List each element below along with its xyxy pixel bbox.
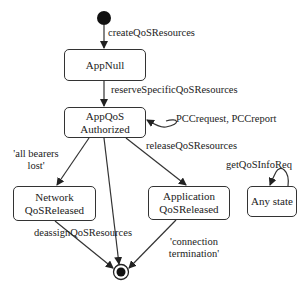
label-line1: 'connection — [164, 236, 224, 248]
state-label-line2: QoSReleased — [159, 203, 218, 216]
state-label-line1: Application — [163, 190, 215, 203]
state-any-state: Any state — [247, 186, 297, 217]
state-app-qos-authorized: AppQoS Authorized — [64, 107, 146, 138]
state-label-line2: QoSReleased — [25, 204, 84, 217]
label-line2: termination' — [164, 248, 224, 260]
state-app-null-label: AppNull — [86, 59, 125, 72]
transition-label-bearers-lost: 'all bearers lost' — [9, 148, 63, 172]
state-network-qos-released: Network QoSReleased — [13, 186, 96, 221]
state-label-line1: AppQoS — [86, 110, 125, 123]
transition-label-deassign: deassignQoSResources — [34, 227, 132, 239]
transition-label-release: releaseQoSResources — [146, 140, 237, 152]
edge-get-info-self-loop — [270, 168, 288, 186]
edge-direct-final — [104, 138, 119, 264]
final-state-inner — [117, 268, 126, 277]
transition-label-connection-termination: 'connection termination' — [164, 236, 224, 260]
state-label-line1: Network — [35, 191, 74, 204]
state-application-qos-released: Application QoSReleased — [148, 186, 230, 220]
edge-pcc-self-loop — [147, 120, 177, 127]
initial-state — [97, 11, 111, 25]
transition-label-reserve: reserveSpecificQoSResources — [111, 84, 238, 96]
transition-label-pcc: PCCrequest, PCCreport — [176, 113, 276, 125]
state-any-state-label: Any state — [251, 195, 293, 208]
label-line2: lost' — [9, 160, 63, 172]
state-label-line2: Authorized — [80, 123, 129, 136]
label-line1: 'all bearers — [9, 148, 63, 160]
transition-label-create: createQoSResources — [108, 27, 195, 39]
state-app-null: AppNull — [64, 49, 146, 81]
transition-label-get-info: getQoSInfoReq — [226, 159, 292, 171]
